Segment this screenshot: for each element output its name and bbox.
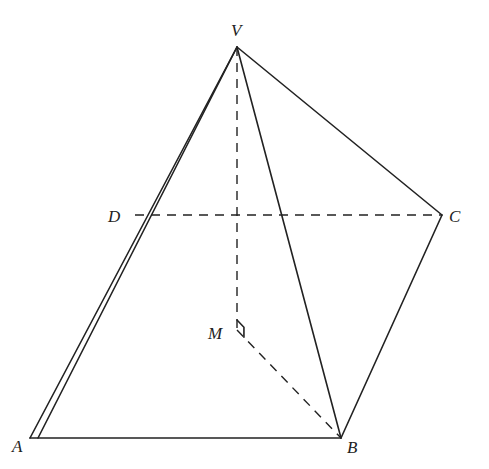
solid-edges — [30, 47, 442, 438]
right-angle-icon — [237, 320, 244, 337]
edge-va — [30, 47, 237, 438]
label-c: C — [449, 207, 461, 226]
label-b: B — [347, 438, 358, 457]
label-d: D — [107, 207, 121, 226]
right-angle-marker — [237, 320, 244, 337]
label-v: V — [231, 21, 244, 40]
edge-bc — [341, 215, 442, 438]
pyramid-diagram: V A B C D M — [0, 0, 489, 469]
edge-vb — [237, 47, 341, 438]
label-a: A — [11, 437, 23, 456]
edge-extra-0 — [38, 47, 237, 438]
vertex-labels: V A B C D M — [11, 21, 461, 457]
edge-vc — [237, 47, 442, 215]
edge-mb — [237, 330, 341, 438]
label-m: M — [207, 324, 223, 343]
